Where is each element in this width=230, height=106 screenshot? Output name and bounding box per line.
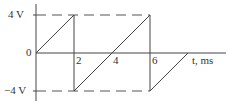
y-label-4v: 4 V xyxy=(8,9,24,20)
y-label-0: 0 xyxy=(26,47,32,58)
x-label-6: 6 xyxy=(152,55,158,66)
x-axis-title: t, ms xyxy=(192,55,213,66)
x-label-2: 2 xyxy=(76,55,82,66)
y-label-neg4v: −4 V xyxy=(4,85,26,96)
chart-plot xyxy=(0,0,230,106)
x-label-4: 4 xyxy=(113,55,119,66)
sawtooth-chart: 4 V 0 −4 V 2 4 6 t, ms xyxy=(0,0,230,106)
